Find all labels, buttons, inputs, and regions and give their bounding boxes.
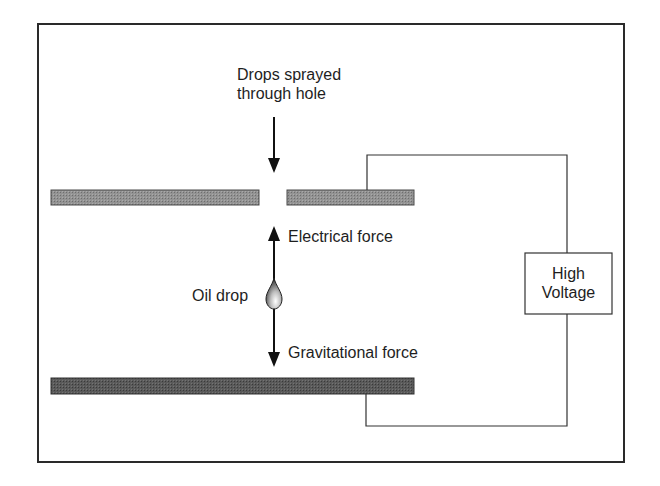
- electrical-force-label: Electrical force: [288, 227, 393, 246]
- gravitational-force-arrow-icon: [268, 305, 280, 367]
- wire-bottom: [366, 314, 567, 426]
- bottom-plate: [51, 378, 414, 394]
- high-voltage-line1: High: [525, 264, 612, 283]
- gravitational-force-label: Gravitational force: [288, 343, 418, 362]
- high-voltage-label: High Voltage: [525, 264, 612, 302]
- drops-sprayed-line2: through hole: [237, 84, 341, 103]
- top-plate-left: [51, 190, 259, 205]
- drops-sprayed-line1: Drops sprayed: [237, 65, 341, 84]
- high-voltage-line2: Voltage: [525, 283, 612, 302]
- oil-drop-label: Oil drop: [192, 286, 248, 305]
- electrical-force-arrow-icon: [268, 226, 280, 286]
- spray-arrow-icon: [268, 117, 280, 173]
- top-plate-right: [287, 190, 414, 205]
- oil-drop-icon: [266, 278, 282, 309]
- drops-sprayed-label: Drops sprayed through hole: [237, 65, 341, 103]
